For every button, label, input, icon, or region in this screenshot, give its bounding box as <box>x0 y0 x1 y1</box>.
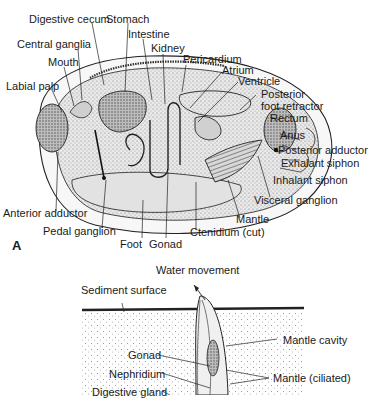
label-ctenidium: Ctenidium (cut) <box>190 226 265 238</box>
panel-label-a: A <box>12 238 21 253</box>
label-digestive-cecum: Digestive cecum <box>29 13 110 25</box>
label-mantle-cavity: Mantle cavity <box>283 334 347 346</box>
label-foot: Foot <box>120 238 142 250</box>
label-rectum: Rectum <box>270 112 308 124</box>
label-exhalant-siphon: Exhalant siphon <box>281 157 359 169</box>
label-mantle-ciliated: Mantle (ciliated) <box>273 372 351 384</box>
label-digestive-gland: Digestive gland <box>92 386 167 398</box>
label-labial-palp: Labial palp <box>6 80 59 92</box>
label-inhalant-siphon: Inhalant siphon <box>273 174 348 186</box>
label-ventricle: Ventricle <box>238 75 280 87</box>
label-nephridium: Nephridium <box>109 368 165 380</box>
label-pedal-ganglion: Pedal ganglion <box>43 225 116 237</box>
label-anus: Anus <box>280 129 305 141</box>
label-anterior-adductor: Anterior adductor <box>3 207 87 219</box>
label-mouth: Mouth <box>48 56 79 68</box>
label-gonad: Gonad <box>149 238 182 250</box>
label-posterior-adductor: Posterior adductor <box>278 144 368 156</box>
label-visceral-ganglion: Visceral ganglion <box>254 194 338 206</box>
label-posterior-foot-retractor: Posterior foot retractor <box>261 88 323 112</box>
label-intestine: Intestine <box>128 28 170 40</box>
label-gonad-b: Gonad <box>128 349 161 361</box>
label-kidney: Kidney <box>151 42 185 54</box>
label-central-ganglia: Central ganglia <box>17 38 91 50</box>
label-water-movement: Water movement <box>156 264 239 276</box>
label-stomach: Stomach <box>106 13 149 25</box>
label-sediment-surface: Sediment surface <box>81 284 167 296</box>
label-mantle: Mantle <box>236 213 269 225</box>
